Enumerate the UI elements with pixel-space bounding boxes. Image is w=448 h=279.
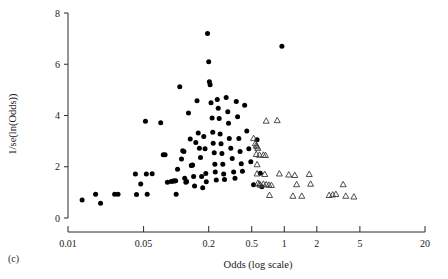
panel-label: (c) — [8, 253, 19, 265]
data-point-filled — [227, 136, 232, 141]
data-point-filled — [234, 99, 239, 104]
data-point-filled — [219, 141, 224, 146]
data-point-filled — [184, 179, 189, 184]
data-point-filled — [193, 140, 198, 145]
data-point-filled — [216, 106, 221, 111]
data-point-filled — [219, 151, 224, 156]
x-tick-label: 1 — [282, 238, 287, 249]
data-point-filled — [192, 183, 197, 188]
data-point-filled — [212, 162, 217, 167]
funnel-plot-figure: 02468 0.010.050.20.512520 Odds (log scal… — [0, 0, 448, 279]
data-point-filled — [211, 141, 216, 146]
data-point-filled — [197, 146, 202, 151]
scatter-plot-canvas: 02468 0.010.050.20.512520 Odds (log scal… — [0, 0, 448, 279]
y-tick-label: 8 — [55, 8, 60, 19]
data-point-filled — [205, 31, 210, 36]
x-tick-label: 5 — [357, 238, 362, 249]
data-point-filled — [198, 155, 203, 160]
data-point-filled — [209, 100, 214, 105]
data-point-filled — [248, 159, 253, 164]
data-point-filled — [158, 120, 163, 125]
data-point-filled — [206, 59, 211, 64]
data-point-filled — [246, 146, 251, 151]
data-point-filled — [210, 116, 215, 121]
data-point-filled — [230, 156, 235, 161]
data-point-filled — [239, 161, 244, 166]
data-point-filled — [220, 162, 225, 167]
data-point-filled — [208, 82, 213, 87]
data-point-filled — [80, 198, 85, 203]
data-point-filled — [204, 179, 209, 184]
data-point-filled — [203, 171, 208, 176]
data-point-filled — [238, 149, 243, 154]
data-point-filled — [203, 146, 208, 151]
data-point-filled — [217, 116, 222, 121]
x-tick-label: 0.2 — [202, 238, 215, 249]
x-axis-title: Odds (log scale) — [224, 259, 293, 271]
data-point-filled — [163, 152, 168, 157]
data-point-filled — [242, 103, 247, 108]
data-point-filled — [240, 169, 245, 174]
data-point-filled — [186, 110, 191, 115]
data-point-filled — [188, 137, 193, 142]
y-tick-label: 6 — [55, 59, 60, 70]
data-point-filled — [179, 157, 184, 162]
data-point-filled — [221, 171, 226, 176]
data-point-filled — [232, 176, 237, 181]
data-point-filled — [222, 177, 227, 182]
x-tick-label: 2 — [314, 238, 319, 249]
data-point-filled — [144, 171, 149, 176]
data-point-filled — [213, 169, 218, 174]
y-tick-label: 2 — [55, 161, 60, 172]
data-point-filled — [138, 181, 143, 186]
data-point-filled — [218, 131, 223, 136]
data-point-filled — [173, 178, 178, 183]
data-point-filled — [143, 119, 148, 124]
data-point-filled — [215, 97, 220, 102]
data-point-filled — [190, 162, 195, 167]
data-point-filled — [231, 169, 236, 174]
data-point-filled — [145, 192, 150, 197]
x-tick-label: 20 — [420, 238, 430, 249]
data-point-filled — [181, 149, 186, 154]
data-point-filled — [134, 192, 139, 197]
data-point-filled — [226, 121, 231, 126]
data-point-filled — [225, 109, 230, 114]
data-point-filled — [196, 130, 201, 135]
data-point-filled — [98, 201, 103, 206]
data-point-filled — [116, 192, 121, 197]
data-point-filled — [175, 167, 180, 172]
data-point-filled — [133, 171, 138, 176]
data-point-filled — [200, 185, 205, 190]
x-tick-label: 0.5 — [245, 238, 258, 249]
data-point-filled — [177, 84, 182, 89]
data-point-filled — [279, 44, 284, 49]
data-point-filled — [93, 192, 98, 197]
data-point-filled — [199, 174, 204, 179]
y-tick-label: 0 — [55, 213, 60, 224]
data-point-filled — [228, 146, 233, 151]
x-tick-label: 0.01 — [59, 238, 77, 249]
data-point-filled — [191, 174, 196, 179]
x-tick-label: 0.05 — [135, 238, 153, 249]
data-point-filled — [212, 150, 217, 155]
data-point-filled — [210, 130, 215, 135]
data-point-filled — [174, 192, 179, 197]
data-point-filled — [236, 136, 241, 141]
data-point-filled — [195, 98, 200, 103]
data-point-filled — [224, 95, 229, 100]
y-axis-title: 1/se(ln(Odds)) — [7, 93, 19, 155]
data-point-filled — [201, 134, 206, 139]
y-tick-label: 4 — [55, 110, 60, 121]
data-point-filled — [214, 178, 219, 183]
data-point-filled — [235, 114, 240, 119]
data-point-filled — [244, 128, 249, 133]
data-point-filled — [150, 171, 155, 176]
